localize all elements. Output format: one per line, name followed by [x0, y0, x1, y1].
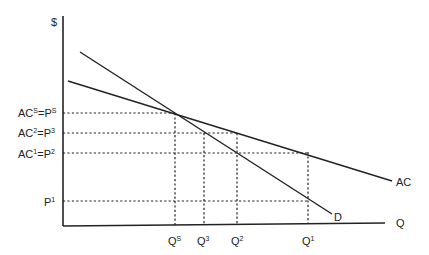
- ac-curve: [68, 81, 392, 181]
- y-tick-ac2-p3: AC2=P3: [18, 127, 55, 139]
- x-tick-q1: Q1: [302, 235, 315, 247]
- ac-label: AC: [396, 176, 411, 188]
- y-tick-ac1-p2: AC1=P2: [18, 148, 55, 160]
- x-tick-q2: Q2: [231, 235, 244, 247]
- y-axis-label: $: [51, 16, 57, 28]
- x-axis: [63, 223, 385, 226]
- y-tick-acs-ps: ACS=PS: [18, 107, 57, 119]
- d-label: D: [334, 211, 342, 223]
- x-tick-q3: Q3: [197, 235, 210, 247]
- y-tick-p1: P1: [44, 196, 55, 208]
- average-cost-demand-diagram: $ Q AC D ACS=PS AC2=P3 AC1=P2 P1 QS Q3 Q…: [0, 0, 429, 255]
- x-tick-qs: QS: [168, 235, 182, 247]
- x-axis-label: Q: [396, 217, 405, 229]
